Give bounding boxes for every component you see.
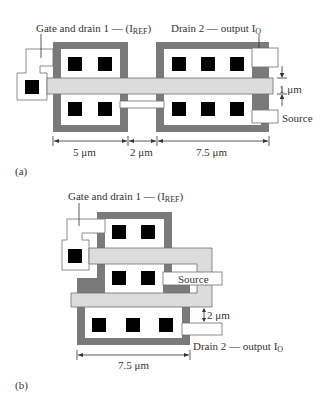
source-label-a: Source [282,112,313,124]
figure-b: Gate and drain 1 — (IREF) Source [15,190,283,392]
drain2-label-b: Drain 2 — output IO [193,340,283,354]
figure-tag-b: (b) [15,379,28,392]
drain2-tab-a [252,48,278,67]
dim-7-5um-b: 7.5 μm [118,359,149,371]
drain2-label-a: Drain 2 — output IO [171,22,261,36]
figure-tag-a: (a) [15,165,28,178]
contact-icon [159,318,173,332]
contact-icon [230,102,244,116]
contact-icon [230,57,244,71]
source-connection-a [120,101,164,108]
dim-5um: 5 μm [73,146,96,158]
layout-diagram: Gate and drain 1 — (IREF) Drain 2 — outp… [0,0,326,401]
contact-icon [172,102,186,116]
drain2-tab-b [182,323,222,335]
contact-icon [201,57,215,71]
contact-icon [98,102,112,116]
figure-a: Gate and drain 1 — (IREF) Drain 2 — outp… [15,22,313,178]
contact-icon [98,57,112,71]
contact-icon [141,225,155,239]
contact-icon [68,57,82,71]
source-tab-a [252,110,278,123]
contact-icon [201,102,215,116]
gate-width-label-a: 1 μm [279,83,302,95]
contact-icon [126,318,140,332]
spacing-label-b: 2 μm [207,309,230,321]
contact-icon [92,318,106,332]
dim-7-5um-a: 7.5 μm [196,146,227,158]
gate-bar-a [47,78,273,94]
gate-drain1-label-a: Gate and drain 1 — (IREF) [36,22,152,36]
dim-2um: 2 μm [130,146,153,158]
contact-icon [112,271,126,285]
contact-icon [172,57,186,71]
contact-icon [112,225,126,239]
gate-drain1-label-b: Gate and drain 1 — (IREF) [68,190,184,204]
source-label-b: Source [178,273,209,285]
contact-icon [68,102,82,116]
contact-icon [141,271,155,285]
